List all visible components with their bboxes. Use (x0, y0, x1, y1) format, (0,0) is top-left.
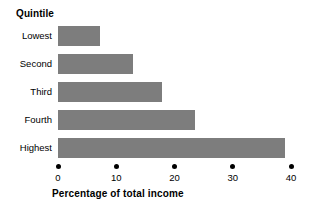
x-tick-label: 0 (55, 172, 60, 183)
category-label-second: Second (20, 54, 52, 74)
category-label-highest: Highest (20, 138, 52, 158)
x-axis-title: Percentage of total income (52, 188, 184, 200)
x-axis: 010203040 (58, 164, 291, 210)
plot-area: Lowest Second Third Fourth Highest (58, 26, 291, 166)
category-label-lowest: Lowest (22, 26, 52, 46)
category-label-fourth: Fourth (25, 110, 52, 130)
bar-row: Lowest (58, 26, 291, 46)
x-tick-label: 10 (111, 172, 122, 183)
bar-row: Fourth (58, 110, 291, 130)
bar-row: Third (58, 82, 291, 102)
x-tick-label: 30 (227, 172, 238, 183)
bar-third (58, 82, 162, 102)
x-tick-label: 20 (169, 172, 180, 183)
bar-highest (58, 138, 285, 158)
bar-lowest (58, 26, 100, 46)
bar-second (58, 54, 133, 74)
tick-dot-icon (172, 164, 177, 169)
x-tick-label: 40 (286, 172, 297, 183)
bar-fourth (58, 110, 195, 130)
tick-dot-icon (230, 164, 235, 169)
bar-row: Second (58, 54, 291, 74)
tick-dot-icon (114, 164, 119, 169)
bar-row: Highest (58, 138, 291, 158)
category-label-third: Third (30, 82, 52, 102)
y-axis-title: Quintile (16, 8, 54, 20)
tick-dot-icon (289, 164, 294, 169)
bar-chart: Quintile Lowest Second Third Fourth High… (0, 0, 314, 212)
tick-dot-icon (56, 164, 61, 169)
